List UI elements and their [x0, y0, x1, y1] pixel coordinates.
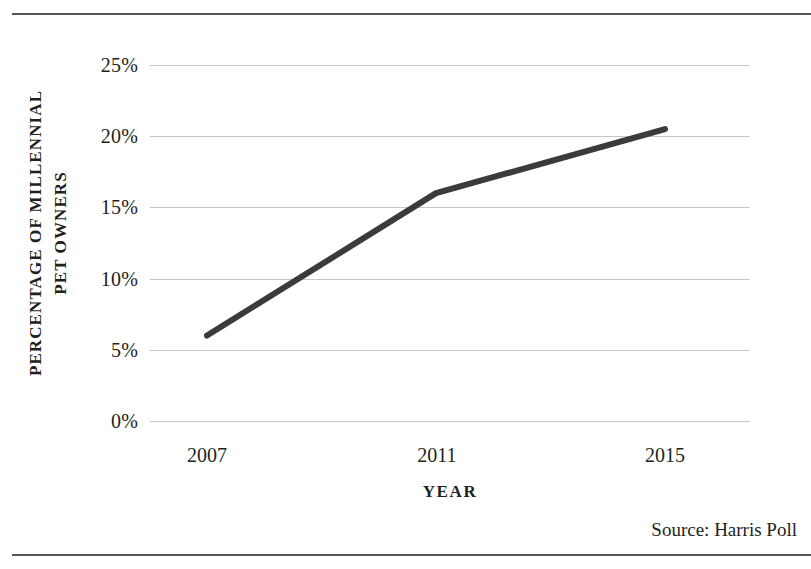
- x-tick-label-2007: 2007: [147, 443, 267, 467]
- y-tick-label-0: 0%: [76, 411, 138, 431]
- y-tick-label-20: 20%: [76, 126, 138, 146]
- y-tick-label-25: 25%: [76, 55, 138, 75]
- chart-figure: PERCENTAGE OF MILLENNIAL PET OWNERS 25% …: [0, 0, 811, 569]
- y-tick-label-15: 15%: [76, 197, 138, 217]
- top-divider-rule: [12, 13, 811, 15]
- source-attribution: Source: Harris Poll: [651, 519, 797, 541]
- series-line-chart: [150, 65, 750, 421]
- x-axis-title: YEAR: [150, 482, 750, 502]
- gridline-0: [150, 421, 750, 422]
- plot-area: [150, 65, 750, 421]
- x-tick-label-2011: 2011: [377, 443, 497, 467]
- y-axis-title-line-1: PERCENTAGE OF MILLENNIAL: [23, 33, 48, 433]
- bottom-divider-rule: [12, 554, 811, 556]
- series-line-millennial-pet-owners: [207, 129, 665, 335]
- y-tick-label-10: 10%: [76, 269, 138, 289]
- y-axis-tick-labels: 25% 20% 15% 10% 5% 0%: [76, 65, 138, 421]
- x-tick-label-2015: 2015: [605, 443, 725, 467]
- y-axis-title-line-2: PET OWNERS: [48, 33, 73, 433]
- y-axis-title: PERCENTAGE OF MILLENNIAL PET OWNERS: [23, 33, 73, 433]
- x-axis-tick-labels: 2007 2011 2015: [150, 443, 750, 471]
- y-tick-label-5: 5%: [76, 340, 138, 360]
